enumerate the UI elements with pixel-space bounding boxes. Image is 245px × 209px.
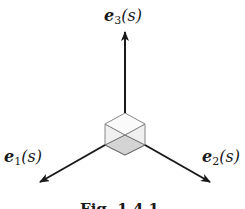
cube-icon xyxy=(105,113,145,155)
figure-caption: Fig. 1.4.1 xyxy=(80,200,159,209)
e1-arrow xyxy=(40,145,105,182)
e2-arrow xyxy=(145,145,210,182)
e2-label: e2(s) xyxy=(202,147,240,168)
e1-label: e1(s) xyxy=(4,147,42,168)
e3-label: e3(s) xyxy=(104,6,142,27)
frame-diagram: e3(s) e1(s) e2(s) Fig. 1.4.1 xyxy=(0,0,245,209)
